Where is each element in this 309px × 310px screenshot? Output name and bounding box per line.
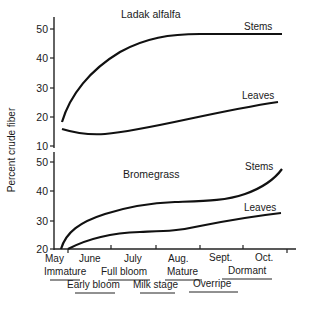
stage-mature: Mature: [167, 266, 199, 277]
top-tick-30: 30: [36, 82, 48, 94]
month-may: May: [45, 253, 64, 264]
bottom-panel-title: Bromegrass: [123, 168, 180, 180]
month-july: July: [124, 253, 142, 264]
bottom-tick-50: 50: [36, 156, 48, 168]
growth-stages-row-1: Immature Full bloom Mature Dormant: [44, 265, 272, 280]
bottom-tick-30: 30: [36, 215, 48, 227]
crude-fiber-figure: Percent crude fiber Ladak alfalfa 50 40 …: [0, 0, 309, 310]
top-tick-10: 10: [36, 140, 48, 152]
month-oct: Oct.: [255, 252, 273, 263]
bottom-panel-bromegrass: Bromegrass 50 40 30 20 Stems Leaves: [36, 152, 296, 255]
y-axis-label: Percent crude fiber: [6, 107, 17, 192]
stage-milk-stage: Milk stage: [133, 279, 178, 290]
bottom-stems-label: Stems: [245, 161, 273, 172]
top-tick-50: 50: [36, 23, 48, 35]
stage-immature: Immature: [44, 266, 87, 277]
top-panel-title: Ladak alfalfa: [121, 8, 181, 20]
month-aug: Aug.: [168, 253, 189, 264]
bottom-tick-40: 40: [36, 185, 48, 197]
top-leaves-curve: [62, 102, 278, 134]
top-leaves-label: Leaves: [242, 90, 274, 101]
growth-stages-row-2: Early bloom Milk stage Overripe: [67, 278, 238, 293]
top-stems-curve: [62, 34, 282, 122]
top-panel-ladak-alfalfa: Ladak alfalfa 50 40 30 20 10 Stems Leave…: [36, 8, 282, 152]
top-stems-label: Stems: [244, 21, 272, 32]
bottom-leaves-label: Leaves: [244, 202, 276, 213]
month-june: June: [79, 253, 101, 264]
bottom-leaves-curve: [68, 213, 281, 249]
month-labels: May June July Aug. Sept. Oct.: [45, 252, 273, 264]
top-tick-20: 20: [36, 111, 48, 123]
stage-overripe: Overripe: [193, 278, 232, 289]
stage-early-bloom: Early bloom: [67, 279, 120, 290]
stage-full-bloom: Full bloom: [101, 266, 147, 277]
month-sept: Sept.: [209, 252, 232, 263]
stage-dormant: Dormant: [228, 265, 267, 276]
top-tick-40: 40: [36, 52, 48, 64]
